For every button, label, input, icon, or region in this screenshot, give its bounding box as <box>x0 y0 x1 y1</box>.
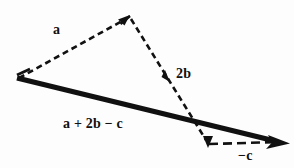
vector-diagram: a 2b a + 2b − c −c <box>0 0 294 168</box>
vector-a <box>19 15 130 78</box>
vector-a-shaft <box>19 20 124 78</box>
vector-canvas <box>0 0 294 168</box>
vector-minus-c <box>209 142 280 144</box>
vector-label-minus-c: −c <box>238 149 253 163</box>
vector-2b <box>131 19 213 148</box>
vector-resultant <box>17 69 290 149</box>
vector-label-a: a <box>53 23 60 37</box>
vector-minus-c-shaft <box>209 142 280 144</box>
vector-resultant-shaft <box>17 78 275 141</box>
vector-2b-end-arrowhead <box>203 136 213 148</box>
vector-label-resultant: a + 2b − c <box>63 117 123 131</box>
vector-label-2b: 2b <box>176 67 191 81</box>
